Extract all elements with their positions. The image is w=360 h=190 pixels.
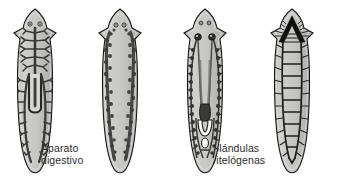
worm-reproductive-diagram (170, 0, 260, 190)
pharynx-lumen (34, 78, 36, 107)
genital-pore (202, 138, 209, 148)
caption-aparato-digestivo: Aparato digestivo (41, 142, 83, 166)
panel-sistema-nervioso: Sistema nervioso (255, 0, 360, 190)
panel-aparato-reproductor: Aparato reproductor (170, 0, 260, 190)
panel-aparato-digestivo: Aparato digestivo (0, 0, 90, 190)
penis-bulb (200, 104, 211, 121)
worm-vitelline-diagram (85, 0, 175, 190)
worm-body-outline (99, 9, 141, 173)
worm-nervous-diagram (255, 0, 360, 190)
caption-line-1: Aparato (41, 142, 78, 154)
panel-glandulas-vitelogenas: Glándulas vitelógenas (85, 0, 175, 190)
planaria-anatomy-figure: Aparato digestivo (0, 0, 360, 190)
caption-line-2: digestivo (41, 154, 83, 166)
